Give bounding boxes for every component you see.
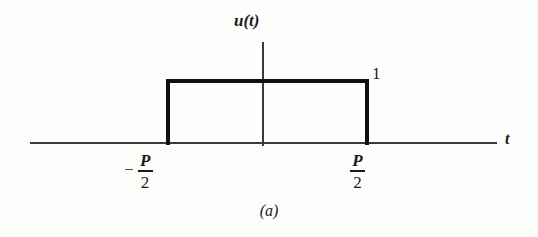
fraction-numerator: P	[350, 152, 364, 170]
amplitude-label: 1	[372, 65, 381, 82]
figure-canvas: u(t) 1 t − P 2 P 2 (a)	[0, 0, 538, 237]
x-tick-label-positive-half-period: P 2	[350, 152, 365, 191]
pulse-rising-edge	[166, 79, 170, 145]
x-axis-label: t	[505, 131, 509, 147]
fraction-denominator: 2	[353, 172, 362, 191]
y-axis-line	[262, 42, 264, 146]
x-tick-label-negative-half-period: − P 2	[124, 152, 153, 191]
fraction-denominator: 2	[141, 172, 150, 191]
fraction-negative-half-period: P 2	[138, 152, 153, 191]
pulse-falling-edge	[365, 79, 369, 145]
y-axis-label: u(t)	[234, 12, 260, 29]
fraction-numerator: P	[138, 152, 152, 170]
fraction-positive-half-period: P 2	[350, 152, 365, 191]
pulse-plateau	[166, 79, 369, 83]
minus-sign: −	[124, 160, 134, 180]
figure-caption: (a)	[0, 203, 538, 219]
